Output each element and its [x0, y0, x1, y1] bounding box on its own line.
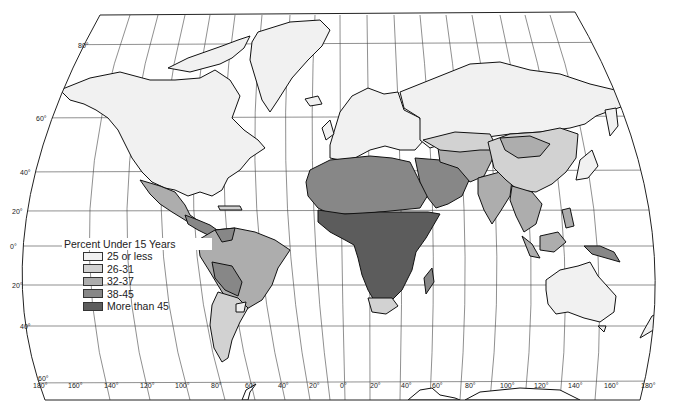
map-legend: Percent Under 15 Years 25 or less 26-31 … [62, 238, 212, 313]
region-south-africa [368, 298, 398, 314]
lon-label-160w: 160° [68, 382, 82, 389]
lon-label-20e: 20° [370, 382, 381, 389]
legend-swatch [83, 277, 103, 286]
lon-label-60e: 60° [432, 382, 443, 389]
lon-label-180w: 180° [33, 382, 47, 389]
region-southeast-asia [510, 186, 542, 232]
region-iceland [305, 96, 322, 106]
region-madagascar [424, 268, 434, 294]
lat-label-40s: 40° [20, 323, 31, 330]
lon-label-180e: 180° [641, 382, 655, 389]
region-north-america [60, 70, 265, 196]
world-map [0, 0, 680, 407]
legend-label: 38-45 [107, 288, 134, 300]
lat-label-0: 0° [10, 243, 17, 250]
legend-title: Percent Under 15 Years [62, 238, 212, 250]
region-sumatra [522, 236, 540, 258]
region-australia [546, 262, 616, 322]
legend-item-32-37: 32-37 [83, 275, 212, 288]
lon-label-140w: 140° [104, 382, 118, 389]
legend-swatch [83, 302, 103, 311]
legend-swatch [83, 264, 103, 273]
lon-label-100e: 100° [500, 382, 514, 389]
lat-label-60n: 60° [36, 115, 47, 122]
legend-swatch [83, 289, 103, 298]
region-japan [576, 150, 598, 180]
region-papua-new-guinea [584, 246, 620, 262]
lon-label-0: 0° [340, 382, 347, 389]
legend-item-26-31: 26-31 [83, 263, 212, 276]
region-antarctica-east [465, 388, 580, 400]
region-subsaharan-africa [318, 210, 440, 302]
legend-item-more-than-45: More than 45 [83, 300, 212, 313]
lat-label-60s: 60° [38, 375, 49, 382]
legend-label: 32-37 [107, 275, 134, 287]
lat-label-20n: 20° [12, 208, 23, 215]
region-caribbean [218, 206, 242, 210]
region-philippines [562, 208, 574, 228]
lon-label-20w: 20° [309, 382, 320, 389]
lon-label-60w: 60° [245, 382, 256, 389]
legend-label: 26-31 [107, 263, 134, 275]
lon-label-120w: 120° [140, 382, 154, 389]
region-kamchatka [605, 108, 618, 136]
lon-label-80e: 80° [465, 382, 476, 389]
region-uruguay [236, 302, 246, 312]
lat-label-40n: 40° [20, 169, 31, 176]
legend-swatch [83, 252, 103, 261]
lon-label-140e: 140° [568, 382, 582, 389]
lat-label-20s: 20° [12, 282, 23, 289]
region-antarctica [408, 388, 460, 400]
legend-label: More than 45 [107, 300, 169, 312]
legend-item-38-45: 38-45 [83, 288, 212, 301]
region-north-africa [306, 156, 428, 214]
lon-label-160e: 160° [604, 382, 618, 389]
legend-item-25-or-less: 25 or less [83, 250, 212, 263]
lon-label-100w: 100° [175, 382, 189, 389]
lon-label-80w: 80° [211, 382, 222, 389]
region-indonesia [540, 232, 566, 252]
lon-label-40w: 40° [278, 382, 289, 389]
region-new-zealand [640, 312, 662, 338]
legend-label: 25 or less [107, 250, 153, 262]
lon-label-40e: 40° [401, 382, 412, 389]
lat-label-80n: 80° [78, 42, 89, 49]
region-arctic-islands [168, 36, 250, 72]
lon-label-120e: 120° [534, 382, 548, 389]
